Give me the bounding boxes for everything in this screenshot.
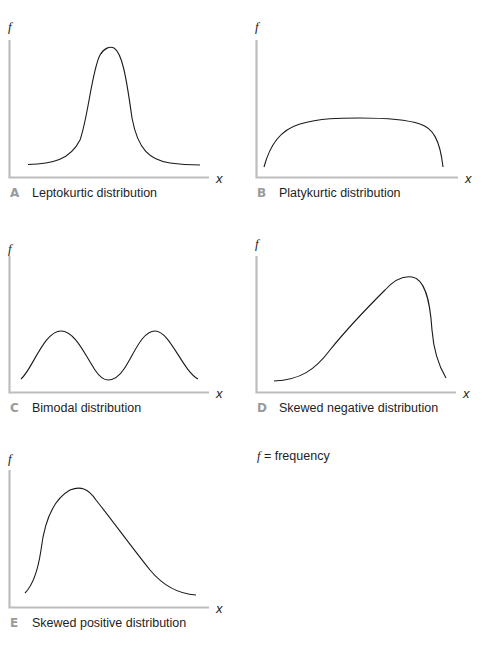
x-axis-label: x (464, 171, 472, 186)
y-axis-label: f (8, 19, 14, 34)
panel-caption: Skewed positive distribution (32, 616, 186, 630)
leptokurtic-curve (28, 47, 200, 165)
panel-caption: Skewed negative distribution (279, 401, 438, 415)
skewed-negative-curve (274, 277, 446, 381)
panel-letter: E (10, 616, 18, 630)
y-axis-label: f (255, 19, 261, 34)
panel-letter: A (10, 186, 20, 200)
axes-lines (10, 40, 210, 178)
panel-caption: Leptokurtic distribution (32, 186, 157, 200)
panel-c-bimodal: f x C Bimodal distribution (8, 241, 223, 415)
axes-lines (10, 256, 210, 393)
x-axis-label: x (462, 386, 470, 401)
panel-caption: Platykurtic distribution (279, 186, 401, 200)
x-axis-label: x (215, 386, 223, 401)
y-axis-label: f (255, 236, 261, 251)
bimodal-curve (21, 331, 198, 380)
legend-text: = frequency (260, 449, 330, 463)
panel-letter: B (257, 186, 266, 200)
axes-lines (257, 40, 459, 178)
panel-letter: C (10, 401, 19, 415)
frequency-legend: f = frequency (257, 449, 330, 463)
platykurtic-curve (264, 118, 443, 167)
y-axis-label: f (8, 451, 14, 466)
panel-a-leptokurtic: f x A Leptokurtic distribution (8, 19, 223, 200)
axes-lines (257, 256, 457, 393)
axes-lines (10, 470, 210, 608)
panel-caption: Bimodal distribution (32, 401, 141, 415)
panel-e-skewed-positive: f x E Skewed positive distribution (8, 451, 223, 630)
panel-letter: D (257, 401, 267, 415)
distribution-figure: f x A Leptokurtic distribution f x B Pla… (0, 0, 483, 648)
skewed-positive-curve (25, 488, 196, 595)
panel-d-skewed-negative: f x D Skewed negative distribution (255, 236, 470, 415)
x-axis-label: x (215, 171, 223, 186)
y-axis-label: f (8, 241, 14, 256)
panel-b-platykurtic: f x B Platykurtic distribution (255, 19, 472, 200)
x-axis-label: x (215, 601, 223, 616)
